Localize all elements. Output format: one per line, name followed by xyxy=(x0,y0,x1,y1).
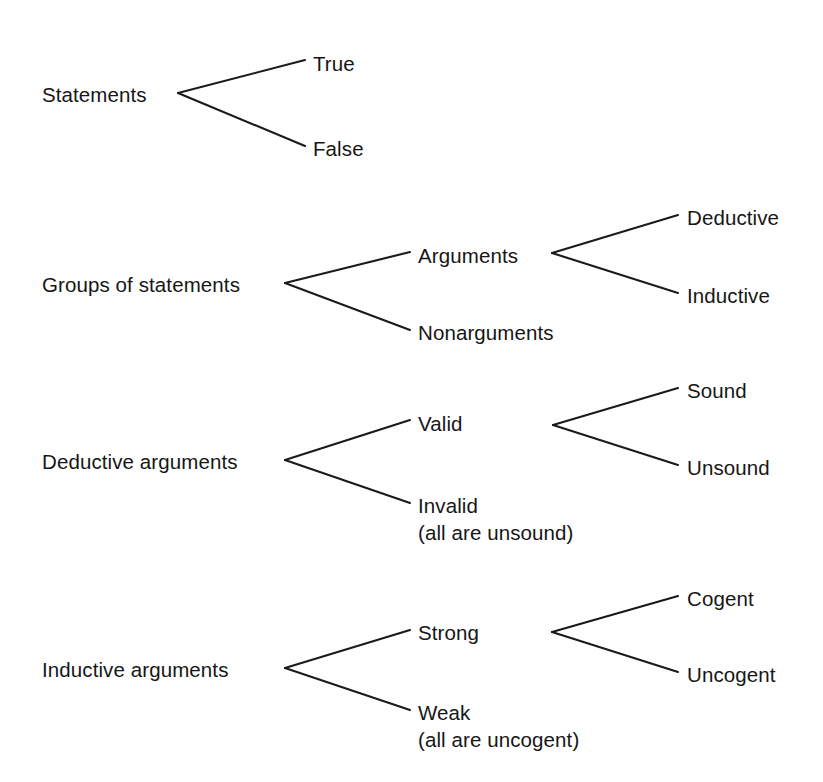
node-deductive: Deductive xyxy=(687,204,779,231)
node-cogent: Cogent xyxy=(687,585,754,612)
node-false-text: False xyxy=(313,137,364,160)
node-cogent-text: Cogent xyxy=(687,587,754,610)
node-inductive-arguments-text: Inductive arguments xyxy=(42,658,229,681)
node-statements: Statements xyxy=(42,81,147,108)
node-deductive-arguments: Deductive arguments xyxy=(42,448,238,475)
node-valid-text: Valid xyxy=(418,412,463,435)
node-uncogent: Uncogent xyxy=(687,661,776,688)
edge-groups-fork-to-nonarguments xyxy=(285,283,410,330)
node-weak: Weak(all are uncogent) xyxy=(418,699,579,753)
node-nonarguments: Nonarguments xyxy=(418,319,554,346)
edge-inductive-fork-to-strong xyxy=(285,630,410,668)
edge-valid-fork-to-sound xyxy=(553,388,678,425)
node-groups-of-statements-text: Groups of statements xyxy=(42,273,240,296)
node-invalid-note: (all are unsound) xyxy=(418,519,574,546)
node-groups-of-statements: Groups of statements xyxy=(42,271,240,298)
classification-tree-diagram: StatementsTrueFalseGroups of statementsA… xyxy=(0,0,823,782)
edge-statements-fork-to-false xyxy=(178,93,305,146)
edge-strong-fork-to-uncogent xyxy=(552,632,678,672)
node-unsound: Unsound xyxy=(687,454,770,481)
node-uncogent-text: Uncogent xyxy=(687,663,776,686)
node-deductive-text: Deductive xyxy=(687,206,779,229)
edge-deductive-fork-to-valid xyxy=(285,420,410,460)
node-statements-text: Statements xyxy=(42,83,147,106)
node-weak-note: (all are uncogent) xyxy=(418,726,579,753)
node-sound: Sound xyxy=(687,377,747,404)
edge-valid-fork-to-unsound xyxy=(553,425,678,465)
node-true-text: True xyxy=(313,52,355,75)
edge-strong-fork-to-cogent xyxy=(552,596,678,632)
node-inductive: Inductive xyxy=(687,282,770,309)
edge-groups-fork-to-arguments xyxy=(285,252,410,283)
edge-arguments-fork-to-inductive xyxy=(552,253,678,293)
node-arguments-text: Arguments xyxy=(418,244,518,267)
edge-arguments-fork-to-deductive xyxy=(552,215,678,253)
node-strong-text: Strong xyxy=(418,621,479,644)
edge-inductive-fork-to-weak xyxy=(285,668,410,710)
node-unsound-text: Unsound xyxy=(687,456,770,479)
node-valid: Valid xyxy=(418,410,463,437)
node-deductive-arguments-text: Deductive arguments xyxy=(42,450,238,473)
node-invalid: Invalid(all are unsound) xyxy=(418,492,574,546)
node-sound-text: Sound xyxy=(687,379,747,402)
node-false: False xyxy=(313,135,364,162)
node-arguments: Arguments xyxy=(418,242,518,269)
node-nonarguments-text: Nonarguments xyxy=(418,321,554,344)
node-weak-text: Weak xyxy=(418,701,470,724)
node-strong: Strong xyxy=(418,619,479,646)
node-inductive-text: Inductive xyxy=(687,284,770,307)
node-true: True xyxy=(313,50,355,77)
edge-deductive-fork-to-invalid xyxy=(285,460,410,503)
edge-statements-fork-to-true xyxy=(178,60,305,93)
node-invalid-text: Invalid xyxy=(418,494,478,517)
node-inductive-arguments: Inductive arguments xyxy=(42,656,229,683)
